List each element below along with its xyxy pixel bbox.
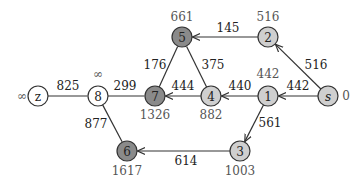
edge-weight-7-5: 176 [144,58,167,72]
graph-canvas: 825299877176444375145440516442561614 z87… [0,0,364,190]
distance-label-s: 0 [342,89,350,103]
node-label: z [35,90,41,104]
edge-weight-3-6: 614 [175,154,198,168]
node-label: 1 [264,90,272,104]
node-3: 3 [230,141,250,161]
node-label: 3 [236,145,244,159]
edge-weight-2-5: 145 [217,21,240,35]
edge-weight-s-1: 442 [287,79,310,93]
node-label: 6 [123,145,131,159]
node-1: 1 [258,86,278,106]
edge-weight-1-4: 440 [229,79,252,93]
distance-label-2: 516 [257,10,280,24]
node-label: s [325,90,331,104]
distance-label-5: 661 [171,10,194,24]
edge-weight-4-7: 444 [172,79,195,93]
edge-weight-8-6: 877 [85,117,108,131]
node-s: s [318,86,338,106]
edge-weight-8-7: 299 [114,79,137,93]
graph-diagram: 825299877176444375145440516442561614 z87… [0,0,364,190]
nodes-layer: z875421s36 [28,27,338,161]
distance-label-6: 1617 [112,164,143,178]
distance-label-1: 442 [257,67,280,81]
edge-weight-z-8: 825 [57,79,80,93]
node-label: 4 [207,90,215,104]
node-z: z [28,86,48,106]
distance-label-7: 1326 [140,108,171,122]
node-5: 5 [172,27,192,47]
distance-label-3: 1003 [225,164,256,178]
edge-weight-4-5: 375 [202,58,225,72]
node-8: 8 [88,86,108,106]
distance-label-4: 882 [200,108,223,122]
node-label: 8 [94,90,102,104]
node-2: 2 [258,27,278,47]
distance-label-z: ∞ [17,89,27,103]
node-6: 6 [117,141,137,161]
node-4: 4 [201,86,221,106]
distance-label-8: ∞ [93,67,103,81]
node-label: 7 [151,90,159,104]
edge-weight-s-2: 516 [305,58,328,72]
node-7: 7 [145,86,165,106]
node-label: 2 [264,31,272,45]
node-label: 5 [178,31,186,45]
edge-weight-1-3: 561 [259,116,282,130]
